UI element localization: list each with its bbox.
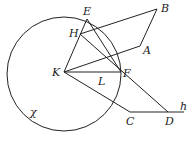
label-K: K: [51, 66, 61, 79]
label-F: F: [122, 67, 131, 80]
label-A: A: [142, 44, 151, 57]
label-L: L: [97, 75, 105, 88]
segment-HB: [80, 9, 157, 34]
label-chi: χ: [29, 106, 38, 119]
label-h: h: [180, 100, 187, 113]
label-H: H: [68, 27, 79, 40]
segment-KC: [64, 72, 130, 112]
circle-chi: [7, 17, 121, 131]
geometry-diagram: E B H A K L F C D h χ: [0, 0, 188, 153]
label-D: D: [164, 115, 174, 128]
label-B: B: [160, 2, 169, 15]
label-C: C: [126, 115, 135, 128]
segment-BA: [140, 9, 157, 46]
segment-EF: [87, 19, 121, 72]
label-E: E: [82, 5, 91, 18]
